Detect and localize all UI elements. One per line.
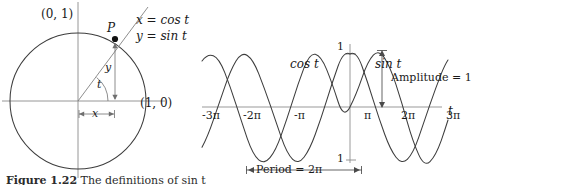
segment-x-label: x — [92, 108, 98, 119]
t-axis-label: t — [448, 105, 453, 117]
x-tick-pi: π — [364, 110, 371, 121]
amplitude-label: Amplitude = 1 — [391, 72, 472, 83]
figure-caption-text: The definitions of sin t — [81, 174, 206, 185]
equation-x-cos-t: x = cos t — [136, 14, 189, 26]
y-axis-label-one-top: 1 — [337, 41, 344, 52]
angle-t-label: t — [97, 79, 101, 90]
segment-y-label: y — [105, 62, 111, 73]
x-tick-neg-pi: -π — [294, 110, 305, 121]
x-tick-neg-3pi: -3π — [202, 110, 220, 121]
trigonometry-figure: (0, 1) (1, 0) P t y x x = cos t y = sin … — [0, 0, 568, 185]
wave-graph-svg — [190, 0, 568, 185]
x-tick-2pi: 2π — [401, 110, 415, 121]
point-1-0-label: (1, 0) — [140, 97, 172, 109]
figure-caption-number: Figure 1.22 — [6, 174, 77, 185]
x-tick-neg-2pi: -2π — [243, 110, 261, 121]
y-measure — [112, 43, 117, 100]
point-0-1-label: (0, 1) — [41, 8, 73, 20]
figure-caption: Figure 1.22 The definitions of sin t — [6, 174, 206, 185]
point-p-label: P — [107, 22, 115, 34]
equation-y-sin-t: y = sin t — [136, 30, 187, 42]
point-p-marker — [112, 36, 118, 42]
unit-circle-panel: (0, 1) (1, 0) P t y x x = cos t y = sin … — [0, 0, 200, 185]
period-label: Period = 2π — [256, 164, 322, 175]
sine-curve-label: sin t — [375, 58, 401, 70]
y-axis-label-one-bottom: 1 — [337, 153, 344, 164]
unit-circle-svg — [0, 0, 200, 185]
wave-graph-panel: cos t sin t 1 1 -3π -2π -π π 2π 3π t Amp… — [190, 0, 568, 185]
cosine-curve-label: cos t — [290, 58, 319, 70]
